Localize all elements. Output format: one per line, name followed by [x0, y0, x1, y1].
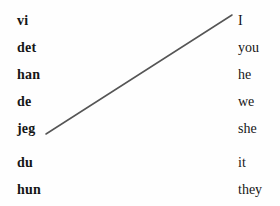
source-term-vi[interactable]: vi	[17, 7, 28, 34]
target-term-you[interactable]: you	[238, 34, 259, 61]
source-term-han[interactable]: han	[17, 61, 40, 88]
target-term-they[interactable]: they	[238, 176, 262, 203]
target-term-he[interactable]: he	[238, 61, 251, 88]
target-term-it[interactable]: it	[238, 149, 246, 176]
source-term-hun[interactable]: hun	[17, 176, 41, 203]
target-term-we[interactable]: we	[238, 88, 254, 115]
matching-exercise: vi det han de jeg du hun I you he we she…	[0, 0, 280, 206]
source-term-det[interactable]: det	[17, 34, 36, 61]
source-term-de[interactable]: de	[17, 88, 31, 115]
target-term-she[interactable]: she	[238, 115, 257, 142]
connection-line-jeg-to-i[interactable]	[46, 15, 232, 134]
source-term-du[interactable]: du	[17, 149, 33, 176]
source-term-jeg[interactable]: jeg	[17, 115, 35, 142]
target-term-i[interactable]: I	[238, 7, 243, 34]
